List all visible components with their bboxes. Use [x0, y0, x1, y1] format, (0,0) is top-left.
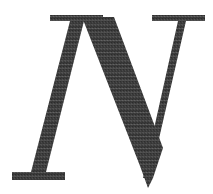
- italic-capital-n-glyph: [0, 0, 213, 194]
- artwork-canvas: N: [0, 0, 213, 194]
- paper-background: [0, 0, 213, 194]
